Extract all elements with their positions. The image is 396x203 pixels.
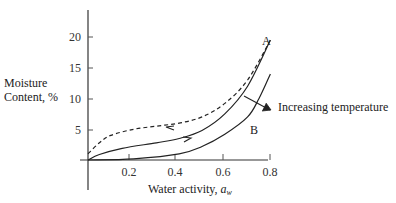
x-axis-title-subscript: w (227, 188, 233, 197)
x-tick-label: 0.2 (122, 165, 137, 179)
x-tick-labels: 0.2 0.4 0.6 0.8 (122, 165, 278, 179)
x-tick-label: 0.6 (216, 165, 231, 179)
x-axis-title: Water activity, aw (148, 182, 233, 197)
curves (88, 40, 270, 160)
y-ticks (88, 37, 93, 130)
arrow-right-icon (183, 137, 191, 142)
increasing-temperature-label: Increasing temperature (278, 100, 388, 114)
adsorption-curve (88, 40, 270, 160)
y-tick-label: 15 (69, 61, 81, 75)
x-axis-title-main: Water activity, (148, 182, 221, 196)
curve-b (88, 74, 270, 160)
x-tick-label: 0.4 (168, 165, 183, 179)
sorption-isotherm-chart: 20 15 10 5 0.2 0.4 0.6 0.8 Moisture Cont… (0, 0, 396, 203)
desorption-curve (88, 40, 270, 154)
curve-a-label: A (262, 34, 271, 48)
y-tick-label: 5 (75, 123, 81, 137)
y-tick-label: 10 (69, 92, 81, 106)
increasing-temperature-arrow-icon (244, 96, 271, 111)
y-tick-labels: 20 15 10 5 (69, 30, 81, 137)
y-axis-title-line2: Content, % (4, 90, 58, 104)
arrow-left-icon (166, 126, 174, 130)
y-axis-title-line1: Moisture (4, 76, 47, 90)
y-tick-label: 20 (69, 30, 81, 44)
x-tick-label: 0.8 (263, 165, 278, 179)
curve-b-label: B (250, 123, 258, 137)
